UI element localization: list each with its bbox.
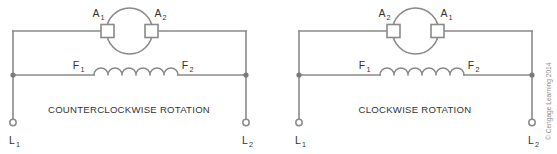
- brush-box-right: [145, 25, 158, 38]
- label-field-left: F: [73, 59, 79, 71]
- diagram-counterclockwise: A 1 A 2 F 1 F 2 L 1 L 2 COUNTERCLOCKWISE…: [9, 7, 253, 149]
- label-line-right-sub: 2: [535, 140, 539, 149]
- label-armature-right: A: [440, 7, 447, 19]
- label-line-right-sub: 2: [249, 140, 253, 149]
- junction-dot-right: [243, 72, 248, 77]
- brush-box-left: [387, 25, 400, 38]
- terminal-circle-l2: [529, 119, 535, 125]
- label-field-right-sub: 2: [190, 65, 194, 74]
- label-armature-left-sub: 1: [101, 13, 105, 22]
- label-field-right: F: [182, 59, 188, 71]
- label-line-left-sub: 1: [302, 140, 306, 149]
- circuit-diagram-canvas: A 1 A 2 F 1 F 2 L 1 L 2 COUNTERCLOCKWISE…: [0, 0, 557, 154]
- label-field-left: F: [359, 59, 365, 71]
- label-armature-left-sub: 2: [387, 13, 391, 22]
- diagram-clockwise: A 2 A 1 F 1 F 2 L 1 L 2 CLOCKWISE ROTATI…: [295, 7, 539, 149]
- terminal-circle-l1: [10, 119, 16, 125]
- shunt-motor-rotation-figure: A 1 A 2 F 1 F 2 L 1 L 2 COUNTERCLOCKWISE…: [0, 0, 557, 154]
- label-field-right: F: [468, 59, 474, 71]
- label-armature-left: A: [378, 7, 385, 19]
- label-armature-left: A: [92, 7, 99, 19]
- label-field-right-sub: 2: [476, 65, 480, 74]
- brush-box-left: [101, 25, 114, 38]
- field-coil: [380, 68, 464, 75]
- caption-counterclockwise: COUNTERCLOCKWISE ROTATION: [48, 104, 210, 115]
- label-field-left-sub: 1: [367, 65, 371, 74]
- caption-clockwise: CLOCKWISE ROTATION: [359, 104, 472, 115]
- copyright-credit: © Cengage Learning 2014: [545, 62, 553, 140]
- field-coil: [94, 68, 178, 75]
- junction-dot-left: [296, 72, 301, 77]
- label-armature-right-sub: 2: [163, 13, 167, 22]
- terminal-circle-l2: [243, 119, 249, 125]
- label-line-left: L: [9, 134, 15, 146]
- label-line-right: L: [528, 134, 534, 146]
- junction-dot-left: [10, 72, 15, 77]
- terminal-circle-l1: [296, 119, 302, 125]
- label-line-left: L: [295, 134, 301, 146]
- label-line-right: L: [242, 134, 248, 146]
- label-armature-right-sub: 1: [449, 13, 453, 22]
- label-line-left-sub: 1: [16, 140, 20, 149]
- label-field-left-sub: 1: [81, 65, 85, 74]
- brush-box-right: [431, 25, 444, 38]
- junction-dot-right: [529, 72, 534, 77]
- label-armature-right: A: [154, 7, 161, 19]
